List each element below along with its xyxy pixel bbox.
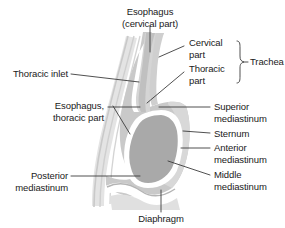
- label-superior-mediastinum: Superior mediastinum: [214, 101, 284, 124]
- label-anterior-mediastinum: Anterior mediastinum: [214, 142, 284, 165]
- leader-thoracic-inlet: [71, 74, 139, 82]
- label-middle-mediastinum: Middle mediastinum: [214, 169, 284, 192]
- label-esophagus-cervical: Esophagus (cervical part): [104, 6, 196, 29]
- leader-cervical-part: [159, 46, 184, 57]
- label-thoracic-inlet: Thoracic inlet: [4, 68, 68, 80]
- trachea-brace: [237, 41, 248, 83]
- label-sternum: Sternum: [214, 128, 274, 140]
- anatomy-figure: Esophagus (cervical part) Cervical part …: [0, 0, 285, 228]
- label-cervical-part: Cervical part: [189, 37, 235, 60]
- label-trachea: Trachea: [250, 56, 285, 68]
- label-esophagus-thoracic: Esophagus, thoracic part: [2, 100, 104, 123]
- label-diaphragm: Diaphragm: [121, 213, 201, 225]
- anatomy-artwork: [92, 32, 190, 210]
- label-thoracic-part: Thoracic part: [189, 63, 237, 86]
- label-posterior-mediastinum: Posterior mediastinum: [2, 170, 68, 193]
